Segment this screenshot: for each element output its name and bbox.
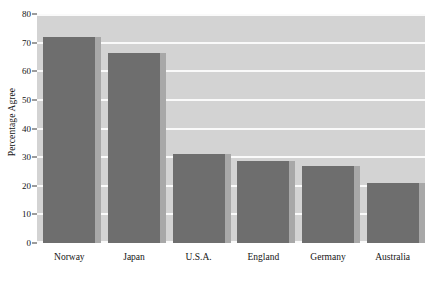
bar-shadow <box>419 183 425 243</box>
y-tick-label: 80 <box>5 10 31 19</box>
x-axis-label: Australia <box>375 250 410 264</box>
x-axis-label: Germany <box>310 250 345 264</box>
x-axis-label: Japan <box>123 250 145 264</box>
x-axis-label: Norway <box>54 250 85 264</box>
bar <box>367 183 419 243</box>
bar <box>173 154 225 243</box>
y-tick-label: 0 <box>5 239 31 248</box>
y-tick-label: 60 <box>5 67 31 76</box>
y-tick-label: 20 <box>5 181 31 190</box>
bar <box>237 161 289 243</box>
bar <box>108 53 160 243</box>
y-tick-label: 30 <box>5 153 31 162</box>
x-axis-labels: NorwayJapanU.S.A.EnglandGermanyAustralia <box>37 250 425 270</box>
x-axis-label: England <box>247 250 279 264</box>
bar-shadow <box>95 37 101 243</box>
bar-chart: Percentage Agree 01020304050607080 Norwa… <box>0 0 442 291</box>
y-tick-label: 40 <box>5 124 31 133</box>
y-tick-label: 10 <box>5 210 31 219</box>
bar-shadow <box>354 166 360 243</box>
bar <box>302 166 354 243</box>
y-axis-ticks: 01020304050607080 <box>0 0 37 258</box>
plot-area <box>37 14 425 243</box>
bars <box>37 14 425 243</box>
bar-shadow <box>225 154 231 243</box>
x-axis-label: U.S.A. <box>186 250 212 264</box>
bar <box>43 37 95 243</box>
bar-shadow <box>160 53 166 243</box>
y-tick-label: 50 <box>5 95 31 104</box>
bar-shadow <box>289 161 295 243</box>
y-tick-label: 70 <box>5 38 31 47</box>
